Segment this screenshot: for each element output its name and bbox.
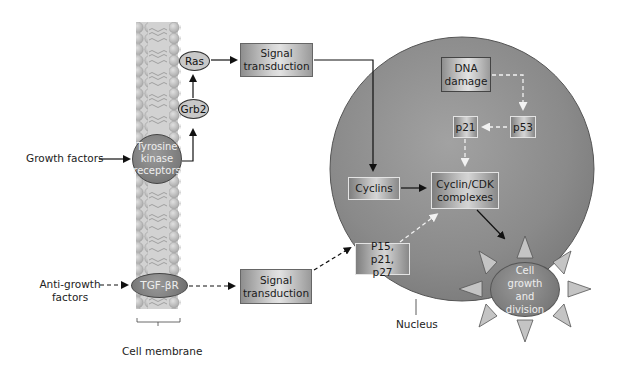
anti-growth-factors-label: Anti-growth factors xyxy=(38,278,102,304)
arrow-signal-to-p15 xyxy=(314,248,350,270)
cell-membrane-label: Cell membrane xyxy=(122,345,202,358)
ras-node: Ras xyxy=(179,51,210,71)
p21-box: p21 xyxy=(453,116,478,138)
tyrosine-kinase-receptor-node: Tyrosine kinase receptors xyxy=(132,134,182,184)
grb2-node: Grb2 xyxy=(178,99,209,119)
p15-p21-p27-box: P15, p21, p27 xyxy=(355,243,410,275)
nucleus-label: Nucleus xyxy=(396,318,438,331)
membrane-bracket xyxy=(137,318,180,326)
signal-transduction-box-1: Signal transduction xyxy=(240,43,313,77)
growth-factors-label: Growth factors xyxy=(26,152,104,165)
tgf-beta-receptor-node: TGF-βR xyxy=(131,273,188,298)
p53-box: p53 xyxy=(510,116,536,138)
diagram-canvas: Growth factors Anti-growth factors Ras G… xyxy=(0,0,618,371)
cyclin-cdk-complexes-box: Cyclin/CDK complexes xyxy=(431,172,499,209)
arrow-receptor-to-grb2 xyxy=(182,130,193,161)
signal-transduction-box-2: Signal transduction xyxy=(240,269,312,304)
dna-damage-box: DNA damage xyxy=(441,57,491,92)
cell-growth-division-node: Cell growth and division xyxy=(490,262,560,317)
cyclins-box: Cyclins xyxy=(348,177,400,200)
